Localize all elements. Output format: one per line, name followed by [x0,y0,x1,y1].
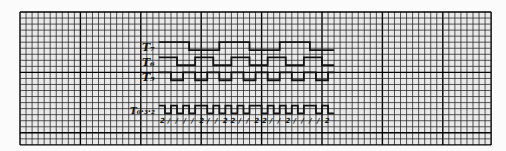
tick-mark: 2 [199,117,204,125]
signal-label-1: T₆ [142,56,155,69]
signal-label-3: T₀·₃·₂ [130,106,155,116]
tick-mark: 2 [231,117,236,125]
tick-mark: 2 [262,117,267,125]
tick-mark: 2 [286,117,291,125]
signal-label-0: T₇ [142,41,155,54]
tick-mark: 2 [254,117,259,125]
graph-paper-sheet: T₇T₆T₅T₀·₃·₂ 2////2//22//22//2////2 [0,0,506,151]
tick-mark: 2 [160,117,165,125]
tick-mark: 2 [223,117,228,125]
signal-label-2: T₅ [142,71,155,84]
tick-mark: 2 [325,117,330,125]
